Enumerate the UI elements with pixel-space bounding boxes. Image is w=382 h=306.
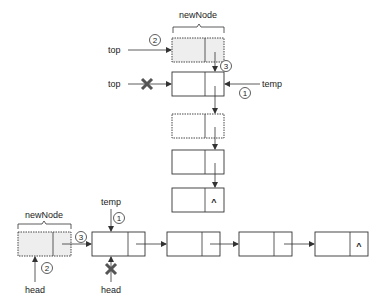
svg-text:2: 2 — [45, 264, 50, 273]
list-newnode-label: newNode — [25, 210, 63, 220]
null-icon: ^ — [211, 197, 217, 207]
stack-temp-label: temp — [262, 79, 282, 89]
svg-text:1: 1 — [117, 214, 122, 223]
svg-text:2: 2 — [153, 36, 158, 45]
stack-newnode-label: newNode — [179, 10, 217, 20]
brace-icon — [173, 24, 224, 33]
list-old-head-label: head — [101, 285, 121, 295]
brace-icon — [18, 221, 71, 229]
stack-old-top-label: top — [108, 79, 121, 89]
svg-text:3: 3 — [79, 233, 84, 242]
linked-list-diagram: newNode top 2 3 top temp 1 — [0, 0, 382, 306]
list-head-label: head — [25, 285, 45, 295]
svg-text:1: 1 — [243, 89, 248, 98]
stack-new-node — [172, 38, 224, 62]
svg-text:3: 3 — [224, 62, 229, 71]
stack-diagram: newNode top 2 3 top temp 1 — [108, 10, 282, 212]
list-temp-label: temp — [101, 197, 121, 207]
null-icon: ^ — [356, 241, 362, 251]
stack-top-label: top — [108, 45, 121, 55]
